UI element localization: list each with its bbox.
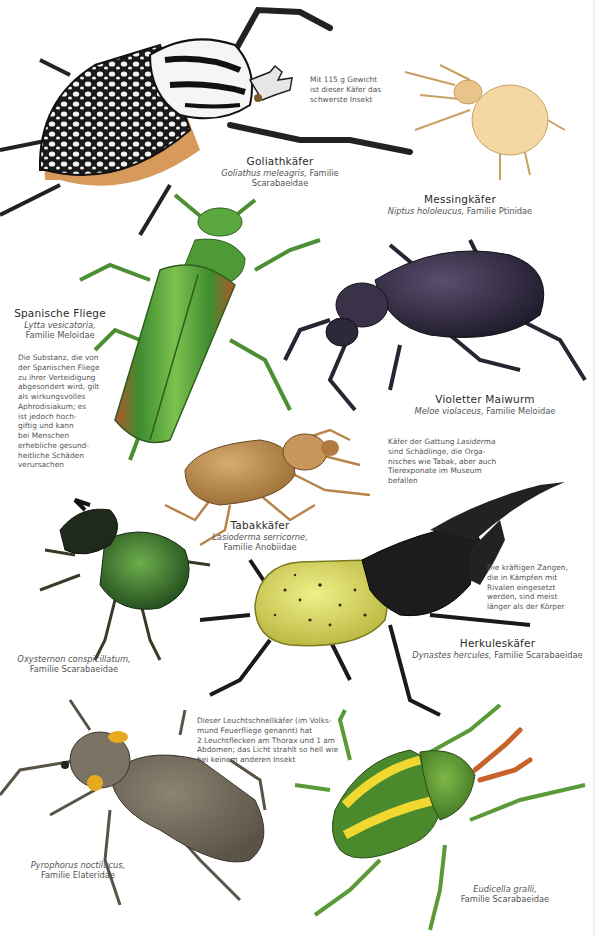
eudicella-family: Familie Scarabaeidae <box>450 894 560 904</box>
spanish-fly-illustration <box>80 195 320 460</box>
note-line: heitliche Schäden <box>18 451 100 461</box>
note-line: Käfer der Gattung <box>388 437 455 446</box>
maiwurm-common-name: Violetter Maiwurm <box>400 393 570 406</box>
spanish-fly-family: Familie Meloidae <box>12 330 108 340</box>
messing-common-name: Messingkäfer <box>375 193 545 206</box>
note-line: abgesondert wird, gilt <box>18 382 100 392</box>
eudicella-species: Eudicella gralli, <box>473 884 536 894</box>
maiwurm-label: Violetter Maiwurm Meloe violaceus, Famil… <box>400 393 570 416</box>
note-line: mund Feuerfliege genannt) hat <box>197 726 338 736</box>
goliath-note: Mit 115 g Gewicht ist dieser Käfer das s… <box>310 75 381 104</box>
tabak-species: Lasioderma serricorne, <box>212 532 308 542</box>
pyrophorus-note: Dieser Leuchtschnellkäfer (im Volks- mun… <box>197 716 338 765</box>
oxysternon-illustration <box>40 500 210 660</box>
note-line: befallen <box>388 476 496 486</box>
eudicella-label: Eudicella gralli, Familie Scarabaeidae <box>450 884 560 905</box>
note-line: bei Menschen <box>18 431 100 441</box>
spanish-fly-label: Spanische Fliege Lytta vesicatoria, Fami… <box>12 307 108 341</box>
note-line: nisches wie Tabak, aber auch <box>388 457 496 467</box>
goliath-note-line: schwerste Insekt <box>310 95 381 105</box>
oxysternon-species: Oxysternon conspicillatum, <box>17 654 130 664</box>
note-line: Rivalen eingesetzt <box>487 583 568 593</box>
messing-label: Messingkäfer Niptus hololeucus, Familie … <box>375 193 545 216</box>
note-line: ist jedoch hoch- <box>18 412 100 422</box>
note-line: als wirkungsvolles <box>18 392 100 402</box>
pyrophorus-species: Pyrophorus noctilucus, <box>31 860 125 870</box>
spanish-fly-note: Die Substanz, die von der Spanischen Fli… <box>18 353 100 470</box>
tabak-note: Käfer der Gattung Lasiderma sind Schädli… <box>388 437 496 486</box>
hercules-species: Dynastes hercules, <box>412 650 491 660</box>
note-genus: Lasiderma <box>457 437 496 446</box>
goliath-note-line: ist dieser Käfer das <box>310 85 381 95</box>
oxysternon-family: Familie Scarabaeidae <box>14 664 134 674</box>
goliath-beetle-illustration <box>0 10 410 235</box>
goliath-species: Goliathus meleagris, <box>221 168 307 178</box>
note-line: Die kräftigen Zangen, <box>487 563 568 573</box>
goliath-label: Goliathkäfer Goliathus meleagris, Famili… <box>200 155 360 189</box>
beetle-illustration-page: Mit 115 g Gewicht ist dieser Käfer das s… <box>0 0 595 936</box>
note-line: der Spanischen Fliege <box>18 363 100 373</box>
pyrophorus-family: Familie Elateridae <box>28 870 128 880</box>
note-line: bei keinem anderen Insekt <box>197 755 338 765</box>
maiwurm-species: Meloe violaceus, <box>415 406 484 416</box>
note-line: Tierexponate im Museum <box>388 466 496 476</box>
pyrophorus-label: Pyrophorus noctilucus, Familie Elaterida… <box>28 860 128 881</box>
tabak-family: Familie Anobiidae <box>200 542 320 552</box>
goliath-common-name: Goliathkäfer <box>200 155 360 168</box>
hercules-family: Familie Scarabaeidae <box>494 650 582 660</box>
hercules-note: Die kräftigen Zangen, die in Kämpfen mit… <box>487 563 568 612</box>
goliath-note-line: Mit 115 g Gewicht <box>310 75 381 85</box>
note-line: zu ihrer Verteidigung <box>18 373 100 383</box>
note-line: verursachen <box>18 460 100 470</box>
spanish-fly-common-name: Spanische Fliege <box>12 307 108 320</box>
note-line: sind Schädlinge, die Orga- <box>388 447 496 457</box>
tabak-common-name: Tabakkäfer <box>200 519 320 532</box>
note-line: Dieser Leuchtschnellkäfer (im Volks- <box>197 716 338 726</box>
maiwurm-illustration <box>285 240 585 410</box>
note-line: länger als der Körper <box>487 602 568 612</box>
messing-species: Niptus hololeucus, <box>388 206 464 216</box>
note-line: Aphrodisiakum; es <box>18 402 100 412</box>
note-line: erhebliche gesund- <box>18 441 100 451</box>
note-line: werden, sind meist <box>487 592 568 602</box>
hercules-common-name: Herkuleskäfer <box>405 637 590 650</box>
note-line: giftig und kann <box>18 421 100 431</box>
hercules-label: Herkuleskäfer Dynastes hercules, Familie… <box>405 637 590 660</box>
maiwurm-family: Familie Meloidae <box>486 406 555 416</box>
note-line: Die Substanz, die von <box>18 353 100 363</box>
messing-family: Familie Ptinidae <box>467 206 532 216</box>
messing-beetle-illustration <box>405 65 565 180</box>
spanish-fly-species: Lytta vesicatoria, <box>24 320 96 330</box>
note-line: Abdomen; das Licht strahlt so hell wie <box>197 745 338 755</box>
note-line: die in Kämpfen mit <box>487 573 568 583</box>
note-line: 2 Leuchtflecken am Thorax und 1 am <box>197 736 338 746</box>
tabak-label: Tabakkäfer Lasioderma serricorne, Famili… <box>200 519 320 553</box>
oxysternon-label: Oxysternon conspicillatum, Familie Scara… <box>14 654 134 675</box>
